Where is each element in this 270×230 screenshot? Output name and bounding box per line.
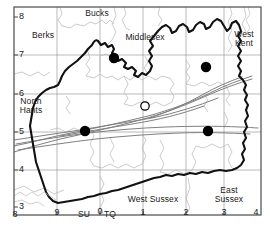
distribution-map: 8 7 6 5 4 3 8 9 0 1 2 3 4 SU TQ Bucks Be… — [0, 0, 270, 230]
region-label-middlesex: Middlesex — [116, 33, 174, 42]
y-tick-8: 8 — [19, 11, 24, 21]
region-label-west-kent: West Kent — [224, 30, 264, 47]
grid-square-su: SU — [78, 209, 90, 219]
record-marker-1 — [109, 53, 119, 63]
y-tick-4: 4 — [19, 164, 24, 174]
region-label-west-sussex: West Sussex — [118, 195, 188, 204]
record-marker-4 — [80, 126, 90, 136]
region-label-east-sussex: East Sussex — [204, 186, 254, 203]
x-tick-4: 4 — [250, 207, 262, 217]
record-marker-5 — [203, 126, 213, 136]
region-label-berks: Berks — [22, 31, 64, 40]
region-label-bucks: Bucks — [75, 9, 119, 18]
y-tick-7: 7 — [19, 49, 24, 59]
record-marker-3 — [141, 102, 149, 110]
x-tick-1: 1 — [137, 207, 149, 217]
x-tick-8: 8 — [9, 209, 21, 219]
x-tick-3: 3 — [218, 207, 230, 217]
x-tick-2: 2 — [180, 207, 192, 217]
region-label-east-sussex-line2: Sussex — [204, 195, 254, 204]
grid-square-tq: TQ — [104, 209, 116, 219]
record-marker-2 — [201, 62, 211, 72]
region-label-north-hants-line2: Hants — [10, 106, 52, 115]
y-tick-5: 5 — [19, 126, 24, 136]
x-tick-9: 9 — [51, 207, 63, 217]
region-label-west-kent-line2: Kent — [224, 39, 264, 48]
region-label-north-hants: North Hants — [10, 97, 52, 114]
